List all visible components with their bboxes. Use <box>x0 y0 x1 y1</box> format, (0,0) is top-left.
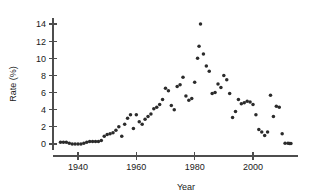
data-point <box>234 110 238 114</box>
x-axis: 1940196019802000 <box>53 152 298 172</box>
data-point <box>138 120 142 124</box>
data-point <box>257 128 261 132</box>
y-tick-label: 4 <box>41 105 46 115</box>
data-point <box>266 130 270 134</box>
data-point <box>155 105 159 109</box>
y-axis: 02468101214 <box>36 18 57 150</box>
data-point <box>103 135 107 139</box>
data-point <box>140 123 144 127</box>
data-point <box>117 125 121 129</box>
data-point <box>114 129 118 133</box>
data-point <box>123 123 127 127</box>
data-point <box>146 115 150 119</box>
data-point <box>269 93 273 97</box>
data-point <box>222 74 226 78</box>
data-point <box>272 115 276 119</box>
data-point <box>178 83 182 87</box>
data-point <box>158 103 162 107</box>
data-point <box>237 98 241 102</box>
data-point <box>181 75 185 79</box>
x-axis-title: Year <box>177 182 195 192</box>
data-point <box>289 142 293 146</box>
x-tick-label: 1940 <box>68 162 88 172</box>
y-tick-label: 6 <box>41 88 46 98</box>
data-point <box>196 57 200 61</box>
scatter-plot: 02468101214 1940196019802000 Rate (%) Ye… <box>0 0 319 194</box>
data-point <box>263 134 267 138</box>
data-point <box>187 99 191 103</box>
data-point <box>213 91 217 95</box>
data-point <box>202 52 206 56</box>
data-point <box>208 69 212 73</box>
data-point <box>199 22 203 26</box>
data-point <box>184 94 188 98</box>
data-point <box>167 89 171 93</box>
data-point <box>193 81 197 85</box>
data-point <box>135 113 139 117</box>
data-point <box>243 101 247 105</box>
data-point <box>278 105 282 109</box>
data-point <box>228 92 232 96</box>
data-point <box>161 98 165 102</box>
y-tick-label: 10 <box>36 54 46 64</box>
x-tick-label: 1960 <box>126 162 146 172</box>
data-point <box>248 100 252 104</box>
chart-figure: 02468101214 1940196019802000 Rate (%) Ye… <box>0 0 319 194</box>
data-point <box>197 45 201 49</box>
data-point <box>231 116 235 120</box>
data-point <box>120 135 124 139</box>
data-point <box>164 87 168 91</box>
data-point <box>225 78 229 82</box>
y-tick-label: 8 <box>41 71 46 81</box>
data-point <box>149 112 153 116</box>
data-point <box>219 86 223 90</box>
data-point <box>254 113 257 117</box>
data-point <box>132 127 136 131</box>
data-point <box>100 139 104 143</box>
data-point <box>190 97 194 101</box>
data-point <box>173 108 177 112</box>
x-tick-label: 1980 <box>185 162 205 172</box>
y-tick-label: 0 <box>41 139 46 149</box>
data-point <box>216 82 220 86</box>
data-point <box>260 130 264 134</box>
data-point <box>111 131 115 135</box>
y-tick-label: 2 <box>41 122 46 132</box>
y-tick-label: 12 <box>36 37 46 47</box>
y-tick-label: 14 <box>36 19 46 29</box>
data-point <box>251 103 255 107</box>
data-point <box>143 117 147 121</box>
data-point <box>152 107 156 111</box>
data-point <box>205 64 209 68</box>
data-point <box>126 117 130 121</box>
data-point <box>170 104 174 108</box>
data-points-layer <box>59 22 293 146</box>
x-tick-label: 2000 <box>243 162 263 172</box>
y-axis-title: Rate (%) <box>8 66 18 102</box>
data-point <box>129 113 133 117</box>
data-point <box>175 85 179 89</box>
data-point <box>280 132 284 136</box>
